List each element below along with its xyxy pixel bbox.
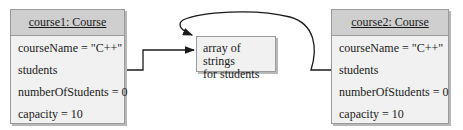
- course2-field-capacity: capacity = 10: [339, 107, 404, 122]
- course2-field-students: students: [339, 63, 378, 78]
- course2-header: course2: Course: [332, 10, 448, 36]
- course2-object: course2: Course courseName = "C++" stude…: [331, 9, 449, 124]
- course1-header: course1: Course: [11, 10, 124, 36]
- course1-field-students: students: [18, 63, 57, 78]
- course1-field-numberofstudents: numberOfStudents = 0: [18, 85, 127, 100]
- array-of-strings-box: array of strings for students: [196, 36, 276, 72]
- course1-field-capacity: capacity = 10: [18, 107, 83, 122]
- course1-object: course1: Course courseName = "C++" stude…: [10, 9, 125, 124]
- array-box-line1: array of strings: [203, 42, 275, 68]
- course2-field-numberofstudents: numberOfStudents = 0: [339, 85, 448, 100]
- course2-field-coursename: courseName = "C++": [339, 41, 443, 56]
- array-box-line2: for students: [203, 68, 275, 81]
- course1-field-coursename: courseName = "C++": [18, 41, 122, 56]
